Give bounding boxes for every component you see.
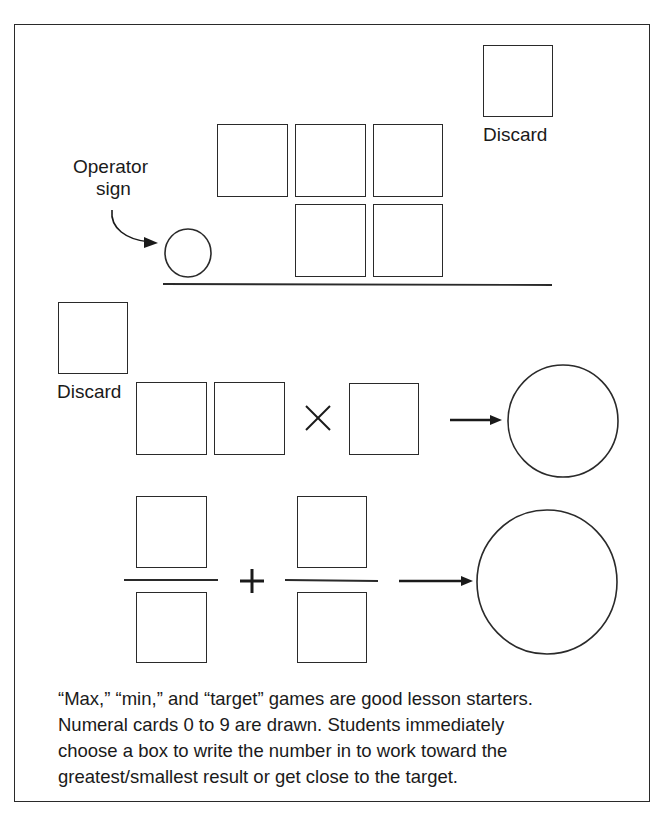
caption-line-3: choose a box to write the number in to w…	[58, 738, 618, 764]
multiply-result-circle	[508, 365, 618, 477]
caption-line-4: greatest/smallest result or get close to…	[58, 764, 618, 790]
fraction-result-circle	[477, 510, 617, 654]
caption-text: “Max,” “min,” and “target” games are goo…	[58, 686, 618, 790]
top-baseline	[163, 284, 552, 285]
curved-pointer-arrow-icon	[112, 210, 158, 248]
operator-sign-circle	[165, 229, 211, 277]
caption-line-1: “Max,” “min,” and “target” games are goo…	[58, 686, 618, 712]
multiply-right-arrow-icon	[450, 415, 502, 425]
fraction2-bar	[285, 580, 378, 581]
fraction-right-arrow-icon	[399, 576, 473, 586]
plus-sign-icon	[240, 569, 264, 593]
caption-line-2: Numeral cards 0 to 9 are drawn. Students…	[58, 712, 618, 738]
multiply-sign-icon	[306, 406, 330, 430]
